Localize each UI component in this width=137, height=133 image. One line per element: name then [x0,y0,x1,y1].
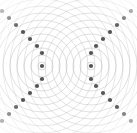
nodal-point-marker [28,91,32,95]
wave-source-marker [40,64,44,68]
nodal-point-marker [0,9,4,13]
nodal-point-marker [14,23,18,27]
nodal-point-marker [94,84,98,88]
nodal-point-marker [89,51,93,55]
nodal-point-marker [122,112,126,116]
nodal-point-marker [122,16,126,20]
nodal-point-marker [108,30,112,34]
nodal-point-marker [21,98,25,102]
nodal-point-marker [108,98,112,102]
nodal-point-marker [28,37,32,41]
nodal-point-marker [89,77,93,81]
nodal-point-marker [129,9,133,13]
nodal-point-marker [101,91,105,95]
nodal-point-marker [35,84,39,88]
wave-source-marker [89,64,93,68]
interference-figure [0,0,137,133]
nodal-point-marker [40,77,44,81]
nodal-point-marker [129,119,133,123]
nodal-point-marker [14,105,18,109]
nodal-point-marker [115,105,119,109]
nodal-point-marker [101,37,105,41]
nodal-point-marker [21,30,25,34]
nodal-point-marker [7,112,11,116]
nodal-point-marker [40,51,44,55]
nodal-point-marker [94,44,98,48]
interference-canvas [0,0,137,133]
nodal-point-marker [115,23,119,27]
nodal-point-marker [0,119,4,123]
nodal-point-marker [35,44,39,48]
nodal-point-marker [7,16,11,20]
